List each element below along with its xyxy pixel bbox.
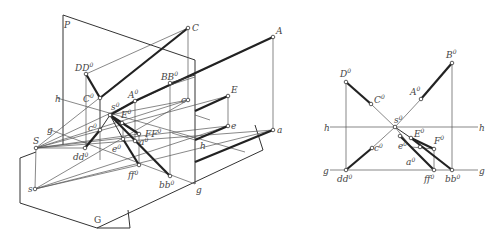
label-c: c (181, 95, 186, 105)
label-D0-right: D0 (339, 67, 351, 79)
point-e0 (121, 137, 125, 141)
point-S (34, 146, 38, 150)
label-S: S (33, 136, 39, 146)
point-E0-right (409, 136, 413, 140)
label-s0-right: s0 (394, 114, 403, 125)
point-bb0-right (450, 168, 454, 172)
label-e0-right: e0 (398, 140, 407, 151)
ground-plane-g (20, 158, 130, 228)
label-DD0: DD0 (74, 61, 93, 73)
label-g-right: g (479, 166, 485, 176)
label-bb0: bb0 (159, 179, 175, 190)
label-bb0-right: bb0 (445, 173, 461, 184)
point-C0-right (369, 102, 373, 106)
point-E0 (120, 121, 124, 125)
point-c0 (98, 128, 102, 132)
point-C0 (98, 96, 102, 100)
label-a: a (277, 125, 282, 135)
point-dd0-right (344, 168, 348, 172)
point-D0 (344, 80, 348, 84)
point-A (271, 35, 275, 39)
point-s (33, 187, 37, 191)
label-C0-right: C0 (374, 93, 385, 105)
point-FF0 (137, 132, 141, 136)
label-g2: g (196, 185, 202, 195)
label-h: h (55, 94, 61, 104)
label-a0: a0 (139, 136, 148, 147)
point-F0-right (432, 147, 436, 151)
point-a0 (133, 139, 137, 143)
left-figure: P C A DD0 BB0 h C0 A0 c E s0 E0 FF0 g c0… (20, 15, 283, 228)
label-s: s (28, 184, 33, 194)
label-ff0: ff0 (127, 169, 138, 180)
point-ff0-right (432, 168, 436, 172)
point-dd0 (83, 146, 87, 150)
label-h-right: h (479, 123, 485, 133)
point-e0-right (398, 134, 402, 138)
point-e (226, 124, 230, 128)
plane-p-ground-extension (195, 115, 210, 120)
label-dd0: dd0 (73, 151, 89, 162)
label-F0-right: F0 (433, 134, 444, 146)
perspective-diagram: P C A DD0 BB0 h C0 A0 c E s0 E0 FF0 g c0… (0, 0, 493, 240)
line-dd0-c (86, 28, 188, 74)
label-C: C (192, 23, 199, 33)
label-A: A (275, 26, 283, 36)
point-s0 (108, 113, 112, 117)
line-c0-s0 (371, 104, 395, 127)
line-s0-a0 (395, 99, 421, 127)
label-A0-right: A0 (409, 85, 421, 97)
edge-c-c0 (100, 28, 188, 98)
label-B0-right: B0 (445, 48, 457, 60)
label-c0-right: c0 (374, 142, 383, 153)
point-C (186, 26, 190, 30)
label-e: e (231, 121, 236, 131)
label-g-left: g (323, 166, 329, 176)
label-C0: C0 (83, 92, 94, 104)
label-h-left: h (324, 123, 330, 133)
ray-sg-ff0 (35, 165, 139, 189)
label-ff0-right: ff0 (423, 173, 434, 184)
label-dd0-right: dd0 (337, 173, 353, 184)
point-ff0 (137, 163, 141, 167)
edge-dd0-c0 (346, 148, 372, 170)
label-G: G (94, 215, 101, 225)
point-E (226, 94, 230, 98)
point-c (186, 98, 190, 102)
label-BB0: BB0 (160, 70, 178, 82)
edge-d0-c0 (346, 82, 371, 104)
point-B0 (450, 61, 454, 65)
point-a (271, 128, 275, 132)
label-E: E (230, 85, 238, 95)
line-s0-E0 (395, 127, 411, 138)
label-e0: e0 (112, 143, 121, 154)
label-a0-right: a0 (406, 156, 415, 167)
label-g: g (47, 125, 53, 135)
point-A0-right (419, 97, 423, 101)
right-figure: D0 B0 C0 A0 h h s0 E0 F0 c0 e0 a0 g g dd… (323, 48, 485, 184)
point-a0-right (418, 145, 422, 149)
point-s0-right (393, 125, 397, 129)
ground-plane-edge-back (20, 152, 36, 158)
label-E0-right: E0 (413, 127, 425, 139)
label-h2: h (200, 141, 206, 151)
point-bb0 (168, 174, 172, 178)
label-c0: c0 (88, 122, 97, 133)
projector-s (35, 148, 36, 189)
edge-a0-b0 (421, 63, 452, 99)
label-A0: A0 (127, 88, 139, 100)
label-P: P (63, 20, 71, 30)
